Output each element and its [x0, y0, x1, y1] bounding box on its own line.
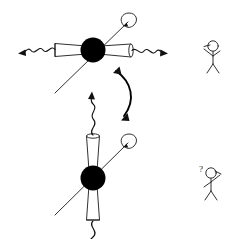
diagram-canvas: ?	[0, 0, 233, 239]
canvas-background	[0, 0, 233, 239]
observer-question-mark: ?	[199, 164, 203, 174]
nucleus-top	[81, 38, 106, 63]
physics-spin-diagram: ?	[0, 0, 233, 239]
nucleus-bottom	[81, 166, 106, 191]
